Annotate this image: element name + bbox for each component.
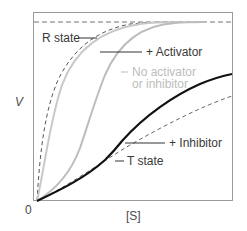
chart-canvas (0, 0, 247, 231)
x-axis-label: [S] (126, 210, 141, 222)
label-inhibitor: + Inhibitor (169, 137, 222, 149)
label-no-activator-line2: or inhibitor (132, 78, 188, 90)
label-r-state: R state (42, 32, 80, 44)
y-axis-label: V (15, 96, 23, 108)
label-t-state: T state (127, 155, 163, 167)
origin-label: 0 (25, 204, 32, 216)
label-activator: + Activator (146, 46, 202, 58)
